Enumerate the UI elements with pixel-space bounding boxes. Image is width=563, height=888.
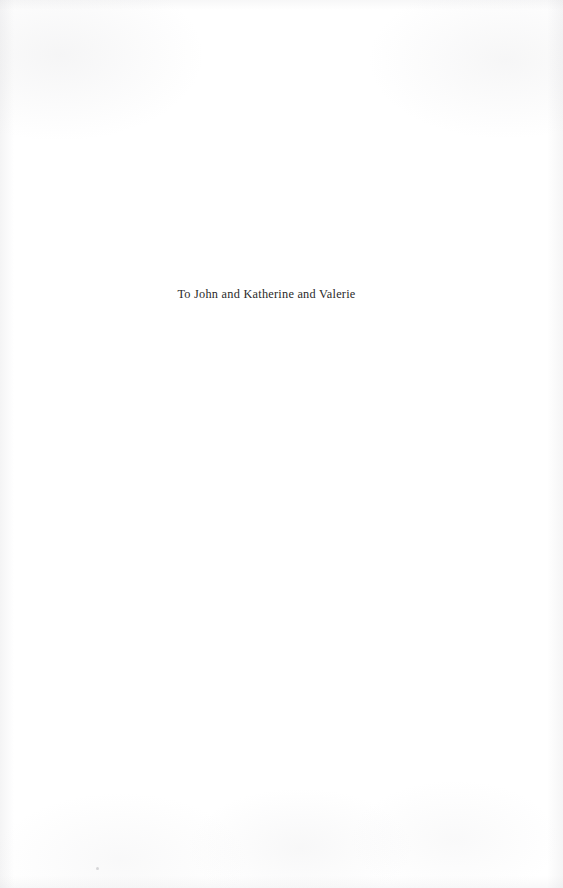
page-edge-shadow-bottom [0,876,563,888]
dedication-text: To John and Katherine and Valerie [0,287,533,301]
scan-texture-overlay [0,0,563,888]
page-edge-shadow-left [0,0,14,888]
page-edge-shadow-top [0,0,563,10]
scanned-book-page: To John and Katherine and Valerie [0,0,563,888]
page-edge-shadow-right [547,0,563,888]
scan-speck-artifact [96,867,99,870]
